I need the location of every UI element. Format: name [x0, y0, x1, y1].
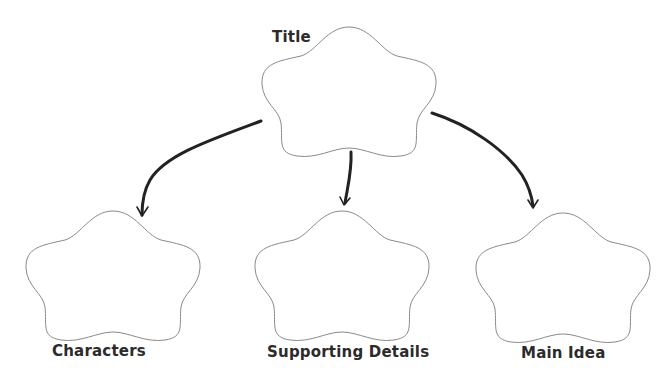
- organizer-canvas: [0, 0, 669, 383]
- main-idea-label: Main Idea: [521, 344, 606, 362]
- cloud-title[interactable]: [262, 27, 436, 157]
- title-label: Title: [272, 28, 311, 46]
- arrow-to-supporting-details: [340, 152, 351, 205]
- characters-label: Characters: [52, 342, 146, 360]
- cloud-characters[interactable]: [26, 211, 200, 341]
- cloud-main-idea[interactable]: [476, 213, 650, 343]
- arrow-to-main-idea: [432, 113, 538, 208]
- arrow-to-characters: [137, 121, 261, 216]
- supporting-details-label: Supporting Details: [267, 343, 429, 361]
- cloud-supporting-details[interactable]: [255, 211, 429, 341]
